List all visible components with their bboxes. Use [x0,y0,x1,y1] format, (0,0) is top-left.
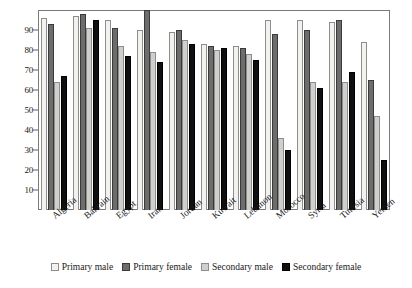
bar [93,20,99,210]
bar-group [358,10,390,210]
bar-group [134,10,166,210]
bar [265,20,271,210]
x-axis-labels: AlgeriaBahrainEgyptIranJordanKuwaitLeban… [38,210,390,256]
x-label-cell: Lebanon [230,210,262,256]
bar-group [38,10,70,210]
bar [86,28,92,210]
legend-swatch-primary-female [122,263,130,271]
bar [374,116,380,210]
bar [253,60,259,210]
bar-group [102,10,134,210]
bar [329,22,335,210]
bar [368,80,374,210]
x-label-cell: Egypt [102,210,134,256]
legend-label: Primary female [133,262,192,272]
bar-chart: 102030405060708090 AlgeriaBahrainEgyptIr… [0,0,412,288]
bar [278,138,284,210]
bar [61,76,67,210]
chart-legend: Primary malePrimary femaleSecondary male… [0,262,412,272]
y-tick-label: 90 [24,26,33,35]
bar [221,48,227,210]
bar [182,40,188,210]
bar [336,20,342,210]
bar [144,10,150,210]
bar [80,14,86,210]
bar [73,16,79,210]
bar [208,46,214,210]
bar [349,72,355,210]
y-tick-label: 80 [24,46,33,55]
bar [157,62,163,210]
bar-group [294,10,326,210]
y-axis: 102030405060708090 [0,10,38,210]
x-label-cell: Syria [294,210,326,256]
legend-swatch-secondary-male [201,263,209,271]
legend-swatch-secondary-female [282,263,290,271]
bar [150,52,156,210]
x-label-cell: Jordan [166,210,198,256]
legend-swatch-primary-male [51,263,59,271]
x-label-cell: Algeria [38,210,70,256]
x-label-cell: Kuwait [198,210,230,256]
bar [297,20,303,210]
x-label-cell: Bahrain [70,210,102,256]
bar-group [198,10,230,210]
bar-group [262,10,294,210]
bar [54,82,60,210]
y-tick-label: 50 [24,106,33,115]
bar [48,24,54,210]
legend-item: Secondary female [282,262,361,272]
bar [233,46,239,210]
y-tick-label: 20 [24,166,33,175]
y-tick-label: 60 [24,86,33,95]
bar [137,30,143,210]
bar [304,30,310,210]
bar [112,28,118,210]
y-tick-label: 70 [24,66,33,75]
bar [317,88,323,210]
bar-group [326,10,358,210]
x-label-cell: Iran [134,210,166,256]
bar [189,44,195,210]
bar [361,42,367,210]
y-tick-label: 40 [24,126,33,135]
bar [214,50,220,210]
x-label-cell: Morocco [262,210,294,256]
bar [118,46,124,210]
legend-label: Secondary male [212,262,273,272]
bar-group [230,10,262,210]
y-tick-label: 10 [24,186,33,195]
bar [41,18,47,210]
legend-item: Primary female [122,262,192,272]
bar [125,56,131,210]
bar [176,30,182,210]
bar [310,82,316,210]
legend-item: Primary male [51,262,113,272]
x-label-cell: Yemen [358,210,390,256]
legend-item: Secondary male [201,262,273,272]
bar [201,44,207,210]
bar-groups [38,10,390,210]
x-label-cell: Tunisia [326,210,358,256]
legend-label: Primary male [62,262,113,272]
bar [272,34,278,210]
bar [342,82,348,210]
bar [105,20,111,210]
bar [169,32,175,210]
bar-group [166,10,198,210]
bar [246,54,252,210]
bar [240,48,246,210]
bar-group [70,10,102,210]
y-tick-label: 30 [24,146,33,155]
legend-label: Secondary female [293,262,361,272]
